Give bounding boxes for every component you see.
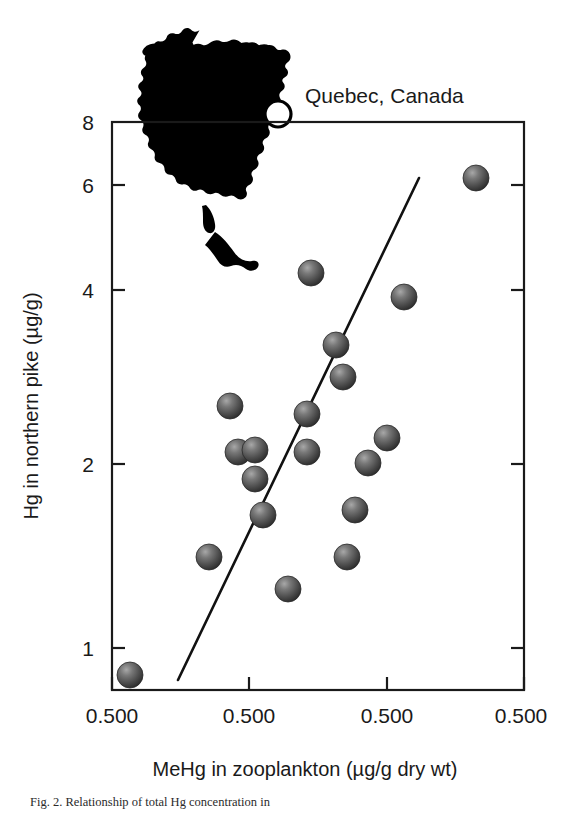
data-point bbox=[242, 437, 268, 463]
y-tick-label-4: 4 bbox=[82, 279, 94, 302]
plot-frame bbox=[112, 122, 524, 690]
data-point bbox=[117, 662, 143, 688]
y-tick-label-1: 1 bbox=[82, 637, 94, 660]
region-annotation-label: Quebec, Canada bbox=[305, 84, 464, 107]
data-point bbox=[323, 332, 349, 358]
y-axis-tick-labels: 8 6 4 2 1 bbox=[82, 111, 94, 660]
data-point bbox=[330, 364, 356, 390]
y-tick-label-2: 2 bbox=[82, 453, 94, 476]
data-point bbox=[294, 401, 320, 427]
x-tick-label-3: 0.500 bbox=[361, 704, 414, 727]
figure-caption: Fig. 2. Relationship of total Hg concent… bbox=[30, 795, 271, 809]
data-point bbox=[298, 260, 324, 286]
data-point bbox=[342, 497, 368, 523]
y-axis-title: Hg in northern pike (µg/g) bbox=[20, 292, 42, 519]
data-point bbox=[355, 450, 381, 476]
scatter-plot: Quebec, Canada 8 6 4 2 1 bbox=[0, 0, 567, 819]
data-point bbox=[217, 393, 243, 419]
data-point bbox=[294, 439, 320, 465]
x-tick-label-4: 0.500 bbox=[495, 704, 548, 727]
x-axis-title: MeHg in zooplankton (µg/g dry wt) bbox=[153, 758, 458, 780]
data-point bbox=[463, 165, 489, 191]
data-point bbox=[374, 425, 400, 451]
florida-shape bbox=[202, 205, 215, 233]
y-tick-label-8: 8 bbox=[82, 111, 94, 134]
x-axis-tick-labels: 0.500 0.500 0.500 0.500 bbox=[86, 704, 548, 727]
x-axis-ticks bbox=[112, 677, 524, 690]
data-point bbox=[391, 284, 417, 310]
x-tick-label-2: 0.500 bbox=[223, 704, 276, 727]
data-point bbox=[334, 544, 360, 570]
data-point bbox=[275, 576, 301, 602]
inset-map-group bbox=[137, 28, 291, 271]
figure-container: Quebec, Canada 8 6 4 2 1 bbox=[0, 0, 567, 819]
data-point bbox=[196, 544, 222, 570]
data-point bbox=[242, 466, 268, 492]
central-america-shape bbox=[205, 232, 259, 271]
data-points-group bbox=[117, 165, 489, 688]
x-tick-label-1: 0.500 bbox=[86, 704, 139, 727]
data-point bbox=[250, 502, 276, 528]
y-tick-label-6: 6 bbox=[82, 174, 94, 197]
